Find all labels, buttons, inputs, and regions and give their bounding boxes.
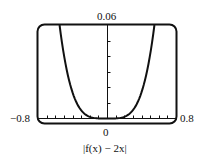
x-max-label: 0.8 bbox=[180, 113, 194, 124]
plot-area bbox=[0, 0, 202, 162]
y-max-label: 0.06 bbox=[97, 11, 116, 22]
x-origin-label: 0 bbox=[103, 127, 109, 138]
x-min-label: −0.8 bbox=[10, 113, 30, 124]
chart-caption: |f(x) − 2x| bbox=[83, 143, 127, 154]
